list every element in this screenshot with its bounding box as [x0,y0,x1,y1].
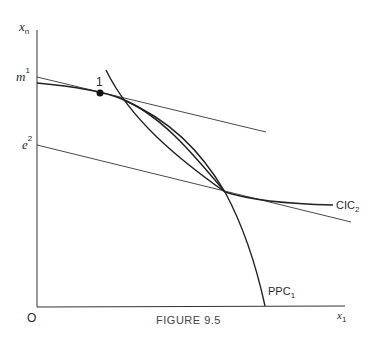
ppc-curve-lower [122,99,265,306]
diagram-canvas [0,0,377,357]
figure-caption: FIGURE 9.5 [0,314,377,326]
y-axis-label: xn [19,20,29,33]
tick-m1: m1 [16,70,30,83]
equilibrium-point-1 [97,90,104,97]
point-label: 1 [96,76,103,88]
tick-e2: e2 [22,138,32,151]
ppc-curve-upper [106,70,225,192]
price-line-1 [37,77,266,132]
x-axis [37,306,345,307]
cic-label: CIC2 [336,200,359,211]
cic-curve [37,83,333,205]
ppc-label: PPC1 [268,286,295,297]
